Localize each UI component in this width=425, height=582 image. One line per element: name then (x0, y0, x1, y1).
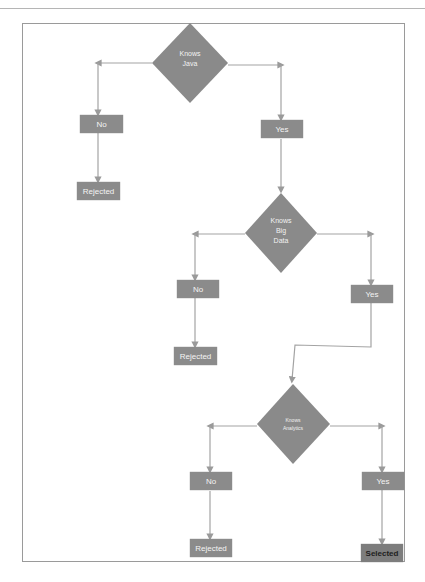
node-yes-analytics: Yes (362, 472, 404, 490)
decision-label-line: Java (160, 59, 220, 69)
connector-yes2-d3 (292, 303, 371, 380)
decision-label-line: Analytics (263, 424, 323, 432)
node-no-big-data: No (177, 280, 219, 298)
decision-label-line: Knows (251, 216, 311, 226)
decision-label-line: Knows (263, 416, 323, 424)
node-yes-java: Yes (261, 120, 303, 138)
node-no-analytics: No (190, 472, 232, 490)
node-rejected-java: Rejected (77, 182, 120, 200)
decision-label-java: Knows Java (160, 49, 220, 69)
decision-label-line: Data (251, 236, 311, 246)
node-rejected-analytics: Rejected (190, 539, 232, 557)
node-selected: Selected (361, 544, 403, 562)
decision-label-analytics: Knows Analytics (263, 416, 323, 432)
node-rejected-big-data: Rejected (174, 347, 217, 365)
decision-label-line: Big (251, 226, 311, 236)
decision-label-line: Knows (160, 49, 220, 59)
node-yes-big-data: Yes (351, 285, 393, 303)
node-no-java: No (80, 115, 123, 133)
decision-label-big-data: Knows Big Data (251, 216, 311, 246)
